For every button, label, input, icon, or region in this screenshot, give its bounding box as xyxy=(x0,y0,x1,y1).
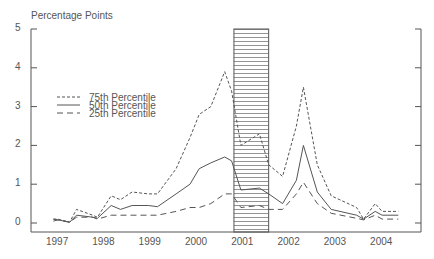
y-tick-label: 0 xyxy=(15,216,21,227)
x-tick-label: 1998 xyxy=(92,236,114,247)
y-tick-label: 3 xyxy=(15,100,21,111)
x-tick-label: 2002 xyxy=(278,236,300,247)
x-tick-label: 1999 xyxy=(139,236,161,247)
x-tick-label: 2001 xyxy=(231,236,253,247)
y-tick-label: 1 xyxy=(15,177,21,188)
x-tick-label: 1997 xyxy=(46,236,68,247)
series-25th-percentile xyxy=(53,182,398,222)
axis-frame xyxy=(31,29,421,232)
x-tick-label: 2000 xyxy=(185,236,207,247)
x-tick-label: 2003 xyxy=(324,236,346,247)
y-tick-label: 5 xyxy=(15,22,21,33)
y-tick-label: 4 xyxy=(15,61,21,72)
y-tick-label: 2 xyxy=(15,138,21,149)
series-50th-percentile xyxy=(53,145,398,222)
x-tick-label: 2004 xyxy=(370,236,392,247)
legend-label: 25th Percentile xyxy=(89,108,156,119)
line-chart: 75th Percentile50th Percentile25th Perce… xyxy=(0,0,434,259)
recession-shading xyxy=(234,29,269,232)
